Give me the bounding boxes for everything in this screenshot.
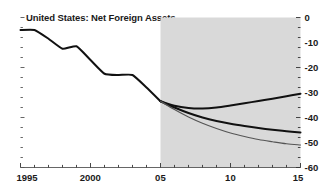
x-tick-label: 15 bbox=[293, 172, 304, 183]
y-tick-label: -60 bbox=[305, 162, 319, 173]
y-tick-label: -10 bbox=[305, 37, 319, 48]
y-tick-label: 0 bbox=[305, 12, 310, 23]
y-axis-left-ticks bbox=[21, 18, 25, 168]
chart-container: United States: Net Foreign Assets 0-10-2… bbox=[0, 0, 332, 190]
y-tick-label: -30 bbox=[305, 87, 319, 98]
x-tick-label: 10 bbox=[225, 172, 236, 183]
x-tick-label: 05 bbox=[155, 172, 166, 183]
projection-shading bbox=[161, 18, 301, 168]
y-tick-label: -40 bbox=[305, 112, 319, 123]
y-tick-label: -20 bbox=[305, 62, 319, 73]
x-tick-label: 1995 bbox=[17, 172, 38, 183]
y-tick-label: -50 bbox=[305, 137, 319, 148]
x-tick-label: 2000 bbox=[80, 172, 101, 183]
chart-plot-area bbox=[0, 0, 332, 190]
